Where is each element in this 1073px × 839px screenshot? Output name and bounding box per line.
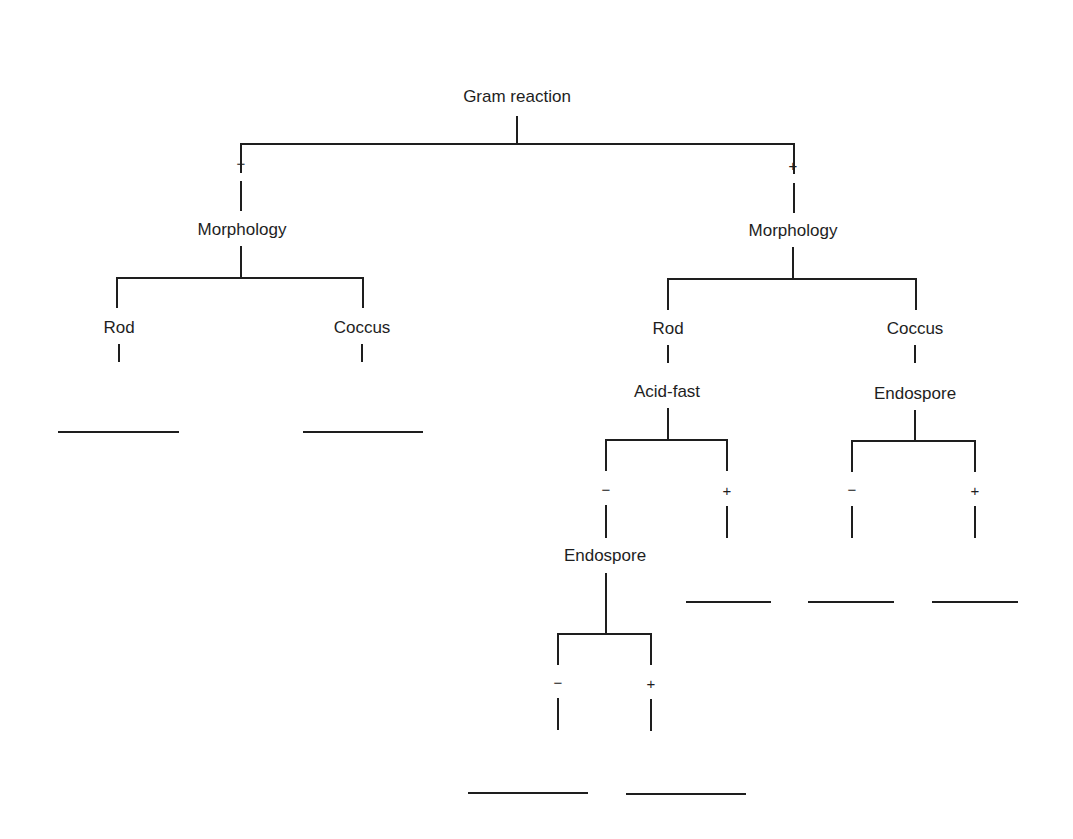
gram-negative-morphology-split <box>116 277 364 279</box>
acid-fast-label: Acid-fast <box>634 383 700 400</box>
rod-endospore-positive-connector-bottom <box>650 699 652 731</box>
pos-rod-stem <box>667 345 669 363</box>
acid-fast-negative-connector-bottom <box>605 505 607 538</box>
coccus-endospore-negative-connector-top <box>851 440 853 472</box>
coccus-endospore-negative-answer-blank[interactable] <box>808 601 894 603</box>
neg-rod-answer-blank[interactable] <box>58 431 179 433</box>
coccus-endospore-positive-connector-top <box>974 440 976 472</box>
gram-positive-morphology-label: Morphology <box>749 222 838 239</box>
pos-coccus-label: Coccus <box>887 320 944 337</box>
coccus-endospore-label: Endospore <box>874 385 956 402</box>
acid-fast-stem <box>667 408 669 440</box>
gram-negative-connector-bottom <box>240 181 242 211</box>
coccus-endospore-split <box>851 440 976 442</box>
neg-coccus-label: Coccus <box>334 319 391 336</box>
rod-endospore-positive-connector-top <box>650 633 652 665</box>
gram-negative-sign: − <box>237 156 246 171</box>
rod-endospore-positive-answer-blank[interactable] <box>626 793 746 795</box>
neg-rod-label: Rod <box>103 319 134 336</box>
gram-positive-connector-bottom <box>793 183 795 213</box>
acid-fast-negative-connector-top <box>605 439 607 471</box>
root-split-bar <box>240 143 795 145</box>
acid-fast-negative-sign: − <box>602 482 611 497</box>
root-label-gram-reaction: Gram reaction <box>463 88 571 105</box>
rod-endospore-negative-sign: − <box>554 675 563 690</box>
gram-positive-morphology-split <box>667 278 917 280</box>
rod-endospore-split <box>557 633 651 635</box>
gram-negative-morphology-label: Morphology <box>198 221 287 238</box>
acid-fast-positive-answer-blank[interactable] <box>686 601 771 603</box>
neg-rod-stem <box>118 344 120 362</box>
acid-fast-positive-connector-top <box>726 439 728 471</box>
rod-endospore-negative-connector-bottom <box>557 698 559 730</box>
pos-rod-connector <box>667 278 669 310</box>
coccus-endospore-positive-sign: + <box>971 483 980 498</box>
acid-fast-positive-sign: + <box>723 483 732 498</box>
neg-rod-connector <box>116 277 118 308</box>
rod-endospore-positive-sign: + <box>647 676 656 691</box>
pos-coccus-connector <box>915 278 917 310</box>
coccus-endospore-stem <box>914 410 916 441</box>
pos-rod-label: Rod <box>652 320 683 337</box>
gram-positive-morphology-stem <box>792 247 794 279</box>
gram-positive-sign: + <box>789 158 798 173</box>
acid-fast-positive-connector-bottom <box>726 506 728 538</box>
root-stem <box>516 116 518 144</box>
rod-endospore-stem <box>605 573 607 634</box>
coccus-endospore-positive-connector-bottom <box>974 506 976 538</box>
coccus-endospore-negative-sign: − <box>848 482 857 497</box>
rod-endospore-label: Endospore <box>564 547 646 564</box>
pos-coccus-stem <box>914 345 916 363</box>
neg-coccus-stem <box>361 344 363 362</box>
gram-negative-morphology-stem <box>240 246 242 278</box>
acid-fast-split <box>605 439 728 441</box>
rod-endospore-negative-connector-top <box>557 633 559 665</box>
neg-coccus-answer-blank[interactable] <box>303 431 423 433</box>
neg-coccus-connector <box>362 277 364 308</box>
rod-endospore-negative-answer-blank[interactable] <box>468 792 588 794</box>
gram-stain-identification-flowchart: Gram reaction − Morphology Rod Coccus + … <box>0 0 1073 839</box>
coccus-endospore-negative-connector-bottom <box>851 506 853 538</box>
coccus-endospore-positive-answer-blank[interactable] <box>932 601 1018 603</box>
